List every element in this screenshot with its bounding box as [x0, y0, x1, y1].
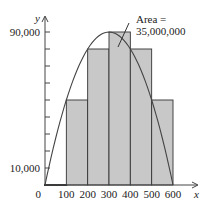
x-tick-label: 200	[79, 188, 96, 200]
x-tick-label: 400	[122, 188, 139, 200]
annotation-line1: Area =	[136, 13, 166, 25]
x-tick-label: 100	[58, 188, 75, 200]
x-tick-label: 0	[36, 188, 42, 200]
x-axis-label: x	[193, 188, 199, 200]
y-tick-label-10000: 10,000	[10, 162, 41, 174]
bar-300-400	[109, 32, 130, 185]
x-tick-label: 600	[165, 188, 182, 200]
y-axis-label: y	[34, 12, 40, 24]
x-tick-label: 300	[101, 188, 118, 200]
riemann-sum-chart: 0100200300400500600 y x 90,000 10,000 Ar…	[0, 0, 210, 208]
y-tick-label-90000: 90,000	[10, 26, 41, 38]
annotation-line2: 35,000,000	[136, 25, 186, 37]
x-tick-labels: 0100200300400500600	[36, 188, 182, 200]
bar-200-300	[88, 49, 109, 185]
x-tick-label: 500	[143, 188, 160, 200]
bar-100-200	[66, 100, 87, 185]
y-ticks	[45, 32, 50, 168]
